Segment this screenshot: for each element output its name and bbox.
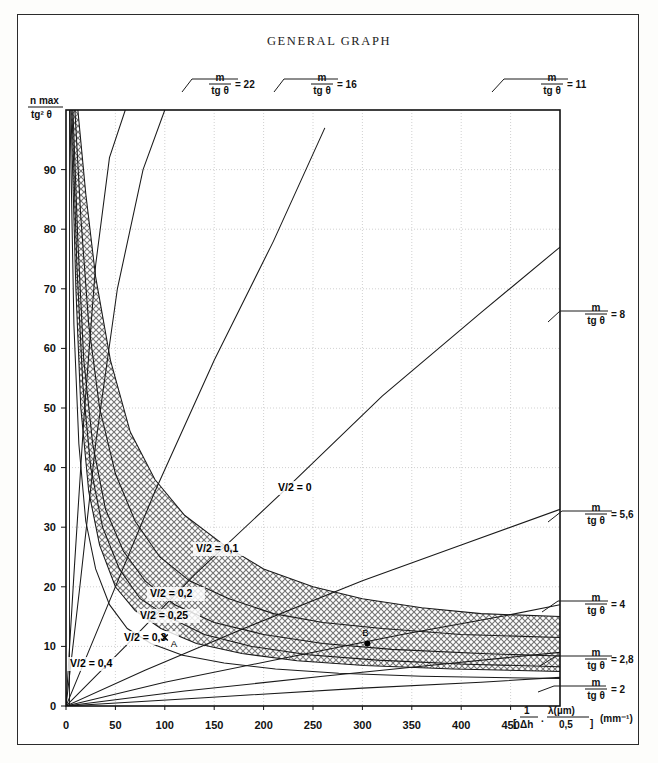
m-label-11: mtg θ= 11 [541,72,587,96]
general-graph-plot: 050100150200250300350400450 010203040506… [0,0,658,763]
x-tick-label: 200 [254,719,272,731]
v-label-text: V/2 = 0,2 [150,587,192,599]
x-axis-dot: . [541,713,544,724]
m-label-denominator: tg θ [211,85,229,96]
leader-line-m-22 [182,79,238,92]
m-label-2: mtg θ= 2 [585,677,626,701]
m-label-numerator: m [592,647,601,658]
m-label-numerator: m [592,302,601,313]
v-label-0-1: V/2 = 0,1 [193,542,251,556]
m-label-4: mtg θ= 4 [585,592,626,616]
y-axis-title-numerator: n max [30,95,59,106]
x-tick-label: 400 [452,719,470,731]
m-label-value: = 22 [235,79,255,90]
m-label-denominator: tg θ [587,315,605,326]
m-label-value: = 4 [611,599,626,610]
point-label: B [362,627,368,638]
v-label-text: V/2 = 0 [278,481,312,493]
y-tick-label: 40 [44,462,56,474]
x-tick-label: 50 [109,719,121,731]
m-label-numerator: m [548,72,557,83]
m-label-value: = 8 [611,309,626,320]
x-axis-frac2-num: λ(µm) [548,705,575,716]
x-tick-labels: 050100150200250300350400450 [63,719,520,731]
y-tick-label: 30 [44,521,56,533]
y-tick-label: 60 [44,342,56,354]
v-label-text: V/2 = 0,1 [196,542,238,554]
m-label-denominator: tg θ [587,690,605,701]
v-label-0: V/2 = 0 [275,481,322,495]
m-label-value: = 2,8 [611,654,634,665]
x-tick-label: 100 [156,719,174,731]
m-label-5-6: mtg θ= 5,6 [585,502,634,526]
x-tick-label: 0 [63,719,69,731]
y-axis-title-denominator: tg² θ [31,109,52,120]
v-label-0-25: V/2 = 0,25 [137,609,200,623]
v-label-0-4: V/2 = 0,4 [67,657,125,671]
v-label-text: V/2 = 0,25 [140,609,188,621]
y-axis-title: n max tg² θ [28,95,63,120]
v-label-0-2: V/2 = 0,2 [147,587,205,601]
y-tick-label: 90 [44,164,56,176]
m-label-value: = 2 [611,684,626,695]
x-tick-label: 300 [353,719,371,731]
m-label-numerator: m [592,592,601,603]
m-label-numerator: m [318,72,327,83]
x-tick-label: 450 [501,719,519,731]
m-label-denominator: tg θ [587,605,605,616]
m-label-numerator: m [216,72,225,83]
m-label-denominator: tg θ [543,85,561,96]
m-label-value: = 16 [337,79,357,90]
m-label-denominator: tg θ [587,515,605,526]
m-label-16: mtg θ= 16 [311,72,357,96]
x-axis-frac1-num: 1 [524,705,530,716]
y-tick-label: 0 [50,700,56,712]
x-axis-frac1-den: Δh [520,719,533,730]
m-label-2-8: mtg θ= 2,8 [585,647,634,671]
m-label-22: mtg θ= 22 [209,72,255,96]
x-tick-label: 250 [304,719,322,731]
m-label-numerator: m [592,677,601,688]
x-axis-title: [ 1 Δh . λ(µm) 0,5 ] (mm⁻¹) [513,705,633,730]
y-tick-label: 10 [44,640,56,652]
y-tick-label: 70 [44,283,56,295]
m-label-denominator: tg θ [313,85,331,96]
v-label-text: V/2 = 0,4 [70,657,112,669]
y-tick-label: 80 [44,223,56,235]
x-axis-unit: (mm⁻¹) [600,713,633,724]
y-tick-label: 50 [44,402,56,414]
v-label-text: V/2 = 0,3 [124,631,166,643]
m-label-value: = 11 [567,79,587,90]
page-root: GENERAL GRAPH 05010015020025030035040045… [0,0,658,763]
m-label-value: = 5,6 [611,509,634,520]
y-tick-labels: 0102030405060708090 [44,164,56,712]
x-axis-bracket-close: ] [590,718,593,729]
x-tick-label: 150 [205,719,223,731]
m-label-denominator: tg θ [587,660,605,671]
x-tick-label: 350 [403,719,421,731]
m-label-8: mtg θ= 8 [585,302,626,326]
m-label-numerator: m [592,502,601,513]
point-label: A [171,638,178,649]
y-tick-label: 20 [44,581,56,593]
x-axis-frac2-den: 0,5 [559,719,573,730]
